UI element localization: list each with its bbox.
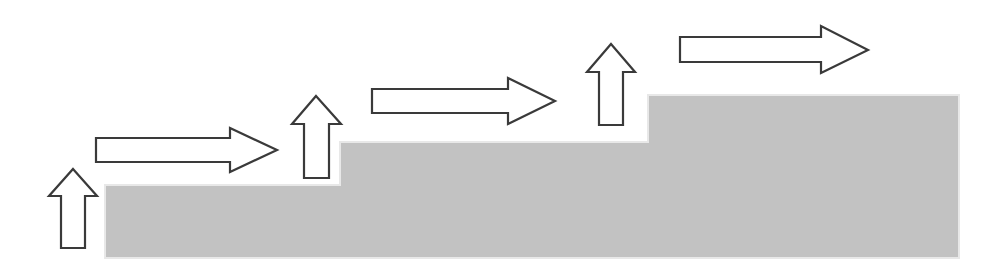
diagram-canvas xyxy=(0,0,1004,274)
staircase-growth-diagram xyxy=(0,0,1004,274)
